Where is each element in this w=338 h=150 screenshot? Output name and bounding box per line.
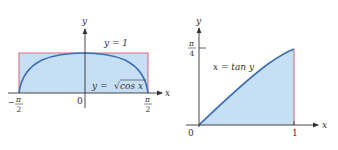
curve-label-prefix: y =	[91, 81, 110, 91]
tick-numerator: π	[188, 39, 195, 48]
label-x-equals-tan-y: x = tan y	[213, 62, 255, 72]
tick-denominator: 4	[190, 49, 195, 58]
label-y-equals-1: y = 1	[103, 38, 128, 48]
minus-sign: −	[8, 98, 15, 107]
right-origin-label: 0	[188, 128, 194, 138]
right-tick-label-pi-over-4: π 4	[188, 39, 196, 58]
left-figure: y x 0 − π 2 π 2 y = 1 y = √ cos x	[8, 16, 170, 114]
tick-numerator: π	[15, 95, 22, 104]
left-tick-pi-over-2: π 2	[144, 95, 152, 114]
figure-canvas: y x 0 − π 2 π 2 y = 1 y = √ cos x	[0, 0, 338, 150]
left-x-axis-label: x	[165, 88, 170, 98]
right-x-tick-label-1: 1	[292, 128, 298, 138]
left-tick-neg-pi-over-2: − π 2	[8, 95, 23, 114]
left-y-axis-label: y	[81, 16, 88, 26]
tick-numerator: π	[144, 95, 151, 104]
label-y-equals-sqrt-cos-x: y = √ cos x	[91, 80, 146, 91]
left-origin-label: 0	[77, 96, 83, 106]
right-figure: y x 0 1 π 4 x = tan y	[186, 16, 327, 138]
radicand: cos x	[120, 81, 143, 91]
right-x-axis-label: x	[322, 120, 327, 130]
tick-denominator: 2	[146, 105, 151, 114]
tick-denominator: 2	[17, 105, 22, 114]
region-fill	[199, 49, 294, 125]
right-y-axis-label: y	[195, 16, 202, 26]
